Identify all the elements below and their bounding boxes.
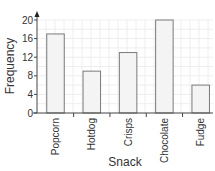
- y-tick-label: 4: [27, 89, 33, 100]
- bar-fudge: [192, 85, 210, 113]
- x-tick-label: Fudge: [195, 118, 206, 147]
- bar-chocolate: [156, 20, 174, 113]
- y-axis-title: Frequency: [3, 38, 17, 95]
- y-tick-label: 8: [27, 70, 33, 81]
- y-tick-label: 12: [22, 52, 34, 63]
- y-tick-labels: 048121620: [22, 15, 37, 119]
- x-tick-label: Crisps: [123, 118, 134, 146]
- x-tick-label: Popcorn: [50, 118, 61, 155]
- x-tick-label: Hotdog: [86, 118, 97, 150]
- bar-hotdog: [83, 71, 101, 113]
- y-tick-label: 16: [22, 33, 34, 44]
- y-tick-label: 20: [22, 15, 34, 26]
- x-axis-title: Snack: [108, 155, 142, 169]
- y-axis-arrow-icon: [35, 11, 40, 17]
- bar-chart: 048121620 PopcornHotdogCrispsChocolateFu…: [0, 0, 215, 171]
- x-tick-label: Chocolate: [159, 118, 170, 163]
- y-tick-label: 0: [27, 108, 33, 119]
- bar-popcorn: [47, 34, 65, 113]
- bar-crisps: [119, 53, 137, 113]
